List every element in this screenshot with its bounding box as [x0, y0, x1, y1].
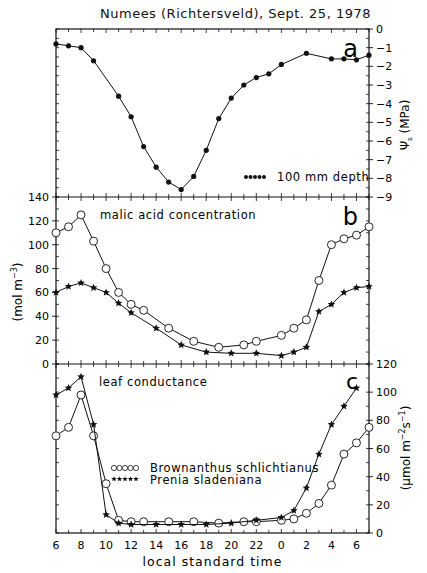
- dot-marker: [91, 58, 96, 63]
- star-marker: [90, 284, 98, 291]
- y-tick-label: 20: [376, 499, 390, 512]
- circle-marker: [327, 241, 335, 249]
- y-tick-label: −3: [376, 79, 392, 92]
- series: [52, 279, 373, 359]
- star-marker: [353, 284, 361, 291]
- y-tick-label: 80: [35, 263, 49, 276]
- circle-marker: [77, 391, 85, 399]
- axis-ticks: [52, 29, 373, 533]
- y-tick-label: −5: [376, 116, 392, 129]
- dot-marker: [53, 41, 58, 46]
- x-tick-label: 14: [149, 539, 163, 552]
- dot-marker: [254, 75, 259, 80]
- dot-marker: [329, 56, 334, 61]
- series: [52, 373, 360, 528]
- circle-marker: [315, 277, 323, 285]
- circle-marker: [240, 341, 248, 349]
- series: [52, 391, 373, 527]
- star-marker: [253, 349, 261, 356]
- star-marker: [315, 308, 323, 315]
- star-marker: [128, 476, 133, 481]
- circle-marker: [252, 337, 260, 345]
- dot-marker: [166, 179, 171, 184]
- x-tick-label: 8: [78, 539, 85, 552]
- star-marker: [65, 283, 73, 290]
- circle-marker: [315, 499, 323, 507]
- y-tick-label: 140: [28, 191, 49, 204]
- series-line: [56, 377, 357, 525]
- y-tick-label: 20: [35, 334, 49, 347]
- star-marker: [133, 476, 138, 481]
- circle-marker: [65, 423, 73, 431]
- y-tick-label: −6: [376, 135, 392, 148]
- y-tick-label: 80: [376, 414, 390, 427]
- y-axis-label-a: Ψs (MPa): [398, 100, 414, 151]
- y-tick-label: 0: [376, 527, 383, 540]
- circle-marker: [340, 235, 348, 243]
- dot-marker: [304, 51, 309, 56]
- dot-marker: [141, 144, 146, 149]
- circle-marker: [340, 450, 348, 458]
- star-marker: [117, 476, 122, 481]
- star-marker: [122, 476, 127, 481]
- y-axis-label-b: (mol m−3): [10, 262, 25, 321]
- y-tick-label: −7: [376, 154, 392, 167]
- circle-marker: [302, 316, 310, 324]
- y-tick-label: 100: [376, 386, 397, 399]
- dot-marker: [116, 94, 121, 99]
- x-tick-label: 20: [224, 539, 238, 552]
- star-marker: [228, 349, 236, 356]
- dot-marker: [154, 165, 159, 170]
- circle-marker: [90, 432, 98, 440]
- x-axis-label: local standard time: [143, 554, 283, 569]
- annotation-conductance: leaf conductance: [99, 375, 207, 389]
- panel-letter-a: a: [343, 35, 358, 63]
- dot-marker: [241, 82, 246, 87]
- legend-dot: [249, 175, 253, 179]
- y-tick-label: 60: [35, 286, 49, 299]
- dot-marker: [279, 62, 284, 67]
- y-tick-label: 40: [376, 471, 390, 484]
- circle-marker: [365, 423, 373, 431]
- circle-marker: [52, 432, 60, 440]
- y-tick-label: 120: [28, 215, 49, 228]
- x-tick-label: 18: [199, 539, 213, 552]
- legend-circle: [122, 465, 127, 470]
- circle-marker: [52, 229, 60, 237]
- dot-marker: [191, 174, 196, 179]
- x-tick-label: 2: [303, 539, 310, 552]
- circle-marker: [352, 231, 360, 239]
- y-tick-label: −2: [376, 60, 392, 73]
- legend-a: 100 mm depth: [244, 170, 369, 184]
- circle-marker: [327, 481, 335, 489]
- circle-marker: [77, 211, 85, 219]
- legend-dot: [244, 175, 248, 179]
- y-tick-label: 0: [376, 23, 383, 36]
- x-tick-label: 0: [278, 539, 285, 552]
- circle-marker: [127, 300, 135, 308]
- circle-marker: [277, 331, 285, 339]
- annotation-malic: malic acid concentration: [100, 208, 256, 222]
- x-tick-label: 4: [328, 539, 335, 552]
- y-axis-label-c: (μmol m−2s−1): [398, 406, 413, 491]
- y-tick-label: 100: [28, 239, 49, 252]
- star-marker: [290, 348, 298, 355]
- dot-marker: [204, 148, 209, 153]
- series-line: [56, 44, 369, 190]
- dot-marker: [129, 114, 134, 119]
- x-tick-label: 6: [53, 539, 60, 552]
- star-marker: [177, 341, 185, 348]
- legend-dot: [253, 175, 257, 179]
- legend-circle: [117, 465, 122, 470]
- axis-labels: 68101214161820220246local standard time0…: [10, 23, 414, 569]
- star-marker: [328, 421, 336, 428]
- circle-marker: [140, 306, 148, 314]
- circle-marker: [302, 509, 310, 517]
- x-tick-label: 22: [249, 539, 263, 552]
- circle-marker: [65, 223, 73, 231]
- y-tick-label: −8: [376, 172, 392, 185]
- legend-circle: [128, 465, 133, 470]
- panel-letter-b: b: [343, 203, 358, 231]
- x-tick-label: 16: [174, 539, 188, 552]
- series: [52, 211, 373, 351]
